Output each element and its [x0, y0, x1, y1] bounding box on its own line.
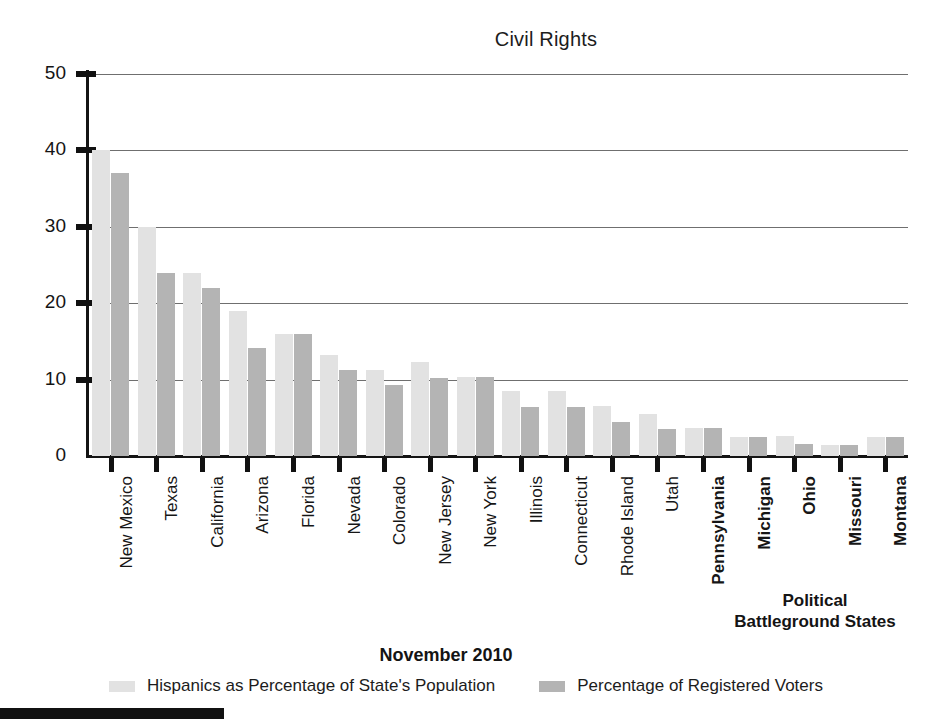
bar-group [275, 74, 312, 456]
x-tick-label-florida: Florida [300, 476, 317, 528]
x-tick-label-colorado: Colorado [391, 476, 408, 545]
bar-group [548, 74, 585, 456]
bar-group [867, 74, 904, 456]
bar-group [776, 74, 813, 456]
bar-population [821, 445, 839, 456]
bar-group [138, 74, 175, 456]
legend-label: Percentage of Registered Voters [577, 676, 823, 696]
x-tick-label-california: California [209, 476, 226, 548]
x-tick-label-connecticut: Connecticut [573, 476, 590, 566]
y-tick-label-10: 10 [14, 368, 66, 390]
bar-registered-voters [886, 437, 904, 456]
x-tick-mark [337, 458, 342, 472]
bar-population [92, 150, 110, 456]
bar-population [366, 370, 384, 456]
bar-registered-voters [430, 378, 448, 456]
x-tick-label-utah: Utah [664, 476, 681, 512]
x-tick-mark [701, 458, 706, 472]
bar-registered-voters [202, 288, 220, 456]
bar-population [685, 428, 703, 456]
bar-population [593, 406, 611, 456]
y-tick-label-20: 20 [14, 291, 66, 313]
x-tick-label-pennsylvania: Pennsylvania [710, 476, 727, 585]
x-tick-label-nevada: Nevada [346, 476, 363, 535]
bar-population [730, 437, 748, 456]
bar-group [685, 74, 722, 456]
bar-population [457, 377, 475, 456]
x-tick-label-texas: Texas [163, 476, 180, 520]
bar-registered-voters [157, 273, 175, 456]
bar-population [502, 391, 520, 456]
x-tick-mark [519, 458, 524, 472]
bar-group [502, 74, 539, 456]
x-tick-mark [291, 458, 296, 472]
x-tick-label-michigan: Michigan [756, 476, 773, 550]
bar-registered-voters [567, 407, 585, 456]
bar-population [776, 436, 794, 456]
bar-population [548, 391, 566, 456]
bar-registered-voters [385, 385, 403, 456]
bar-registered-voters [248, 348, 266, 456]
legend-label: Hispanics as Percentage of State's Popul… [147, 676, 495, 696]
x-tick-label-arizona: Arizona [254, 476, 271, 534]
x-tick-mark [883, 458, 888, 472]
bar-population [183, 273, 201, 456]
x-tick-mark [838, 458, 843, 472]
battleground-annotation: Political Battleground States [700, 590, 930, 633]
x-tick-label-new-jersey: New Jersey [437, 476, 454, 565]
y-tick-label-0: 0 [14, 444, 66, 466]
bar-registered-voters [294, 334, 312, 456]
x-tick-mark [473, 458, 478, 472]
x-tick-mark [154, 458, 159, 472]
battleground-annotation-line1: Political [700, 590, 930, 611]
x-tick-mark [200, 458, 205, 472]
x-tick-label-ohio: Ohio [801, 476, 818, 515]
x-tick-label-new-mexico: New Mexico [118, 476, 135, 569]
legend-item: Hispanics as Percentage of State's Popul… [109, 676, 495, 696]
x-tick-mark [792, 458, 797, 472]
bar-population [639, 414, 657, 456]
bar-group [92, 74, 129, 456]
x-tick-mark [428, 458, 433, 472]
legend-swatch-icon [539, 681, 565, 692]
bar-group [229, 74, 266, 456]
bar-group [183, 74, 220, 456]
x-tick-mark [747, 458, 752, 472]
page-edge-artifact [0, 708, 224, 719]
bars-layer [88, 74, 908, 456]
x-tick-mark [610, 458, 615, 472]
chart-title: Civil Rights [0, 28, 952, 51]
x-tick-label-illinois: Illinois [528, 476, 545, 523]
x-tick-mark [382, 458, 387, 472]
bar-group [639, 74, 676, 456]
y-tick-label-40: 40 [14, 138, 66, 160]
chart-legend: Hispanics as Percentage of State's Popul… [0, 676, 952, 696]
bar-group [411, 74, 448, 456]
legend-item: Percentage of Registered Voters [539, 676, 823, 696]
y-tick-label-50: 50 [14, 62, 66, 84]
bar-group [366, 74, 403, 456]
y-tick-label-30: 30 [14, 215, 66, 237]
x-tick-label-new-york: New York [482, 476, 499, 548]
x-tick-label-rhode-island: Rhode Island [619, 476, 636, 576]
bar-population [229, 311, 247, 456]
legend-swatch-icon [109, 681, 135, 692]
battleground-annotation-line2: Battleground States [700, 611, 930, 632]
bar-group [457, 74, 494, 456]
bar-population [275, 334, 293, 456]
x-tick-mark [564, 458, 569, 472]
bar-group [320, 74, 357, 456]
bar-registered-voters [749, 437, 767, 456]
x-tick-label-missouri: Missouri [847, 476, 864, 546]
bar-population [138, 227, 156, 456]
bar-registered-voters [840, 445, 858, 456]
bar-registered-voters [476, 377, 494, 456]
bar-population [411, 362, 429, 456]
x-tick-label-montana: Montana [892, 476, 909, 546]
bar-registered-voters [704, 428, 722, 456]
bar-group [730, 74, 767, 456]
bar-population [320, 355, 338, 456]
bar-registered-voters [612, 422, 630, 456]
bar-group [821, 74, 858, 456]
x-tick-mark [109, 458, 114, 472]
